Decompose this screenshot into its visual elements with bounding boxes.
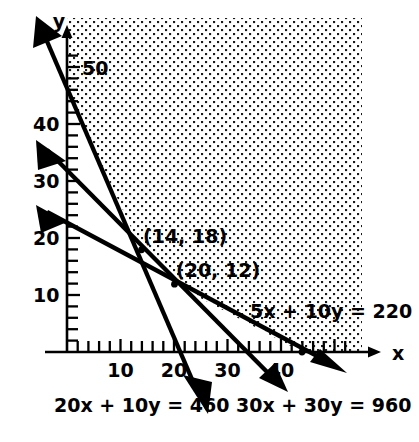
- x-tick-label-20: 20: [161, 359, 187, 381]
- x-axis-arrowhead: [368, 347, 381, 358]
- vertex-dot-44-0: [299, 349, 306, 356]
- vertex-dot-14-18: [138, 246, 145, 253]
- point-label-20-12: (20, 12): [176, 259, 260, 281]
- y-tick-label-10: 10: [33, 284, 59, 306]
- y-tick-label-40: 40: [33, 113, 59, 135]
- x-axis-label: x: [392, 342, 404, 364]
- graph-canvas: y x 50 40 30 20 10 10 20 30 40 (14, 18) …: [0, 0, 419, 442]
- y-tick-label-50: 50: [82, 57, 108, 79]
- x-tick-label-40: 40: [268, 359, 294, 381]
- equation-label-30x-30y-960: 30x + 30y = 960: [236, 394, 411, 416]
- linear-programming-graph: y x 50 40 30 20 10 10 20 30 40 (14, 18) …: [0, 0, 419, 442]
- y-axis-label: y: [53, 10, 66, 32]
- vertex-dot-20-12: [171, 281, 178, 288]
- y-tick-label-30: 30: [33, 170, 59, 192]
- equation-label-20x-10y-460: 20x + 10y = 460: [54, 394, 229, 416]
- point-label-14-18: (14, 18): [143, 225, 227, 247]
- x-tick-label-30: 30: [214, 359, 240, 381]
- equation-label-5x-10y-220: 5x + 10y = 220: [250, 300, 412, 322]
- y-tick-label-20: 20: [33, 227, 59, 249]
- x-tick-label-10: 10: [107, 359, 133, 381]
